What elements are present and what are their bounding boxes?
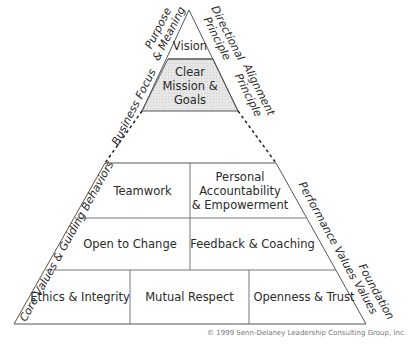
mission-cell: Clear Mission & Goals [150,64,230,108]
copyright-notice: © 1999 Senn-Delaney Leadership Consultin… [207,329,406,337]
open-to-change-cell: Open to Change [70,219,190,269]
openness-trust-cell: Openness & Trust [249,271,359,323]
accountability-cell: Personal Accountability & Empowerment [190,165,290,217]
mutual-respect-cell: Mutual Respect [130,271,249,323]
feedback-coaching-cell: Feedback & Coaching [190,219,315,269]
